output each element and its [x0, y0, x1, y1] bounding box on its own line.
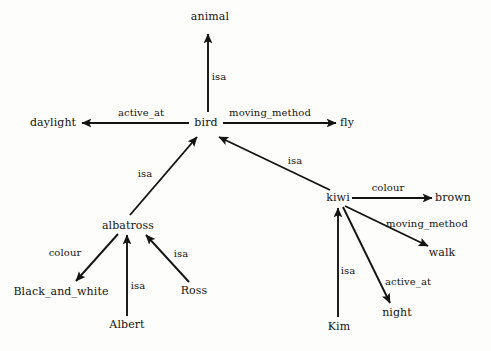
node-kiwi: kiwi [326, 192, 350, 204]
edge-label-kiwi-colour-brown: colour [372, 182, 405, 193]
node-ross: Ross [181, 285, 208, 297]
edge-label-ross-isa-albatross: isa [174, 248, 189, 259]
node-bird: bird [194, 117, 217, 129]
node-animal: animal [191, 11, 229, 23]
edge-kiwi-activeat-night [343, 207, 390, 303]
edge-label-bird-isa-animal: isa [212, 71, 227, 82]
edge-label-albatross-colour-blackwhite: colour [49, 247, 82, 258]
edge-label-kim-isa-kiwi: isa [341, 265, 356, 276]
edge-ross-isa-albatross [146, 235, 189, 282]
node-brown: brown [435, 192, 471, 204]
node-albatross: albatross [102, 220, 154, 232]
edge-label-albatross-isa-bird: isa [138, 168, 153, 179]
node-black_and_white: Black_and_white [13, 286, 108, 298]
edge-label-kiwi-movingmethod-walk: moving_method [386, 218, 468, 229]
graph-edges-layer [0, 0, 491, 351]
node-kim: Kim [328, 321, 350, 333]
semantic-network-diagram: animaldaylightbirdflyalbatrosskiwibrownw… [0, 0, 491, 351]
edge-label-kiwi-activeat-night: active_at [385, 276, 431, 287]
node-fly: fly [340, 117, 354, 129]
edge-kiwi-isa-bird [219, 137, 330, 190]
edge-albatross-colour-blackwhite [76, 234, 118, 281]
edge-label-bird-activeat-daylight: active_at [118, 107, 164, 118]
node-night: night [382, 307, 412, 319]
edge-label-kiwi-isa-bird: isa [288, 155, 303, 166]
node-walk: walk [429, 247, 456, 259]
node-daylight: daylight [30, 117, 76, 129]
node-albert: Albert [109, 319, 144, 331]
edge-label-albert-isa-albatross: isa [131, 280, 146, 291]
edge-label-bird-movingmethod-fly: moving_method [229, 107, 311, 118]
